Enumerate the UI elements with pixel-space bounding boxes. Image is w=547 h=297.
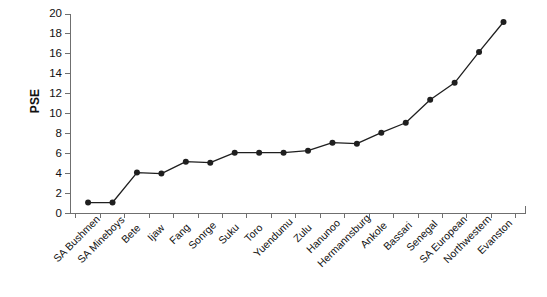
data-point bbox=[354, 141, 360, 147]
data-point bbox=[158, 171, 164, 177]
data-point bbox=[207, 160, 213, 166]
series-markers-pse bbox=[85, 19, 506, 206]
data-point bbox=[232, 150, 238, 156]
data-point bbox=[476, 49, 482, 55]
data-point bbox=[281, 150, 287, 156]
data-point bbox=[452, 80, 458, 86]
series-line-pse bbox=[88, 22, 503, 203]
data-point bbox=[183, 159, 189, 165]
chart-container: PSE 02468101214161820 SA BushmenSA Mineb… bbox=[0, 0, 547, 297]
data-point bbox=[403, 120, 409, 126]
data-point bbox=[427, 97, 433, 103]
data-point bbox=[256, 150, 262, 156]
data-point bbox=[501, 19, 507, 25]
data-point bbox=[110, 200, 116, 206]
data-point bbox=[378, 130, 384, 136]
data-point bbox=[85, 200, 91, 206]
data-point bbox=[329, 140, 335, 146]
data-point bbox=[305, 148, 311, 154]
data-point bbox=[134, 170, 140, 176]
